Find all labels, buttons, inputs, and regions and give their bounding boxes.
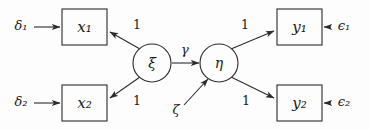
edge-eta-to-y2 [231,77,274,98]
edge-eta-to-y1 [231,31,274,49]
node-label-eta: η [215,55,224,71]
edge-zeta-to-eta [184,79,208,105]
path-label-loading-y1: 1 [241,17,249,32]
node-label-y1: y₁ [291,18,307,36]
path-label-loading-y2: 1 [242,93,250,108]
error-label-epsilon1: ϵ₁ [338,18,351,33]
node-label-xi: ξ [148,55,157,71]
node-label-x2: x₂ [77,94,91,112]
node-label-x1: x₁ [77,18,91,36]
error-label-epsilon2: ϵ₂ [338,94,351,109]
path-label-loading-x2: 1 [133,93,141,108]
edge-xi-to-x1 [110,32,140,49]
error-label-zeta: ζ [172,102,180,117]
path-label-gamma: γ [181,42,189,57]
error-label-delta2: δ₂ [14,94,27,109]
node-label-y2: y₂ [291,94,307,112]
path-label-loading-x1: 1 [133,17,141,32]
sem-path-diagram: x₁ x₂ y₁ y₂ ξ η δ₁ δ₂ ϵ₁ ϵ₂ ζ 1 1 1 1 γ [0,0,370,130]
error-label-delta1: δ₁ [14,18,27,33]
diagram-canvas: x₁ x₂ y₁ y₂ ξ η δ₁ δ₂ ϵ₁ ϵ₂ ζ 1 1 1 1 γ [0,0,370,130]
